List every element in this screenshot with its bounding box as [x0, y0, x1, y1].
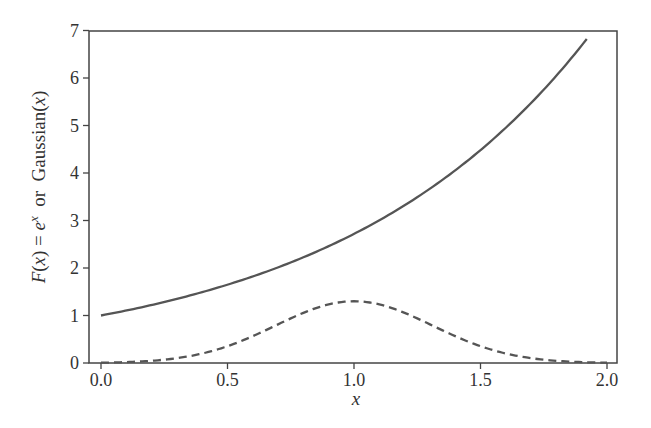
y-tick-label: 3 [70, 211, 79, 231]
y-label-eq: ) = [28, 230, 50, 257]
exponential-curve [101, 39, 587, 316]
x-tick-label: 0.5 [216, 370, 239, 390]
chart: 01234567 0.00.51.01.52.0 x F(x) = ex or … [0, 0, 651, 428]
series-group [101, 39, 607, 363]
y-label-close: ) [28, 91, 50, 97]
x-axis-ticks: 0.00.51.01.52.0 [90, 363, 619, 390]
y-label-F: F [28, 271, 49, 284]
y-axis-ticks: 01234567 [70, 21, 89, 374]
x-tick-label: 1.5 [469, 370, 492, 390]
gaussian-curve [101, 301, 607, 362]
y-tick-label: 2 [70, 258, 79, 278]
y-tick-label: 7 [70, 21, 79, 41]
plot-frame [89, 31, 617, 363]
y-tick-label: 6 [70, 68, 79, 88]
y-label-gaussian: Gaussian( [28, 105, 50, 181]
x-tick-label: 1.0 [343, 370, 366, 390]
x-tick-label: 2.0 [596, 370, 619, 390]
y-tick-label: 1 [70, 306, 79, 326]
y-tick-label: 5 [70, 116, 79, 136]
y-tick-label: 0 [70, 353, 79, 373]
x-tick-label: 0.0 [90, 370, 113, 390]
y-label-or: or [28, 181, 49, 216]
x-axis-label: x [351, 388, 361, 409]
plot-border [89, 31, 617, 363]
y-tick-label: 4 [70, 163, 79, 183]
y-label-e: e [28, 222, 49, 230]
y-axis-label: F(x) = ex or Gaussian(x) [26, 91, 50, 285]
